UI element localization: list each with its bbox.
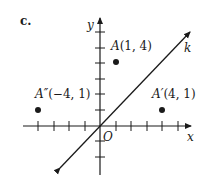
point-a-prime-name: A′	[151, 87, 164, 101]
point-a-coords: (1, 4)	[120, 39, 152, 53]
point-a-double-prime-label: A″(−4, 1)	[34, 87, 90, 101]
point-a-label: A(1, 4)	[110, 39, 152, 53]
point-a-prime	[159, 107, 165, 113]
point-a-double-prime-coords: (−4, 1)	[48, 87, 90, 101]
point-a-prime-coords: (4, 1)	[163, 87, 195, 101]
coordinate-diagram: c. x y O k A(1, 4) A′(4, 1)	[0, 0, 206, 182]
origin-label: O	[103, 130, 113, 144]
x-axis-label: x	[187, 130, 194, 144]
point-a-double-prime-name: A″	[34, 87, 49, 101]
line-k-label: k	[184, 41, 191, 55]
y-axis-label: y	[86, 18, 94, 32]
point-a-name: A	[110, 39, 120, 53]
point-a	[113, 59, 119, 65]
point-a-prime-label: A′(4, 1)	[151, 87, 196, 101]
point-a-double-prime	[35, 107, 41, 113]
part-label: c.	[20, 14, 31, 28]
